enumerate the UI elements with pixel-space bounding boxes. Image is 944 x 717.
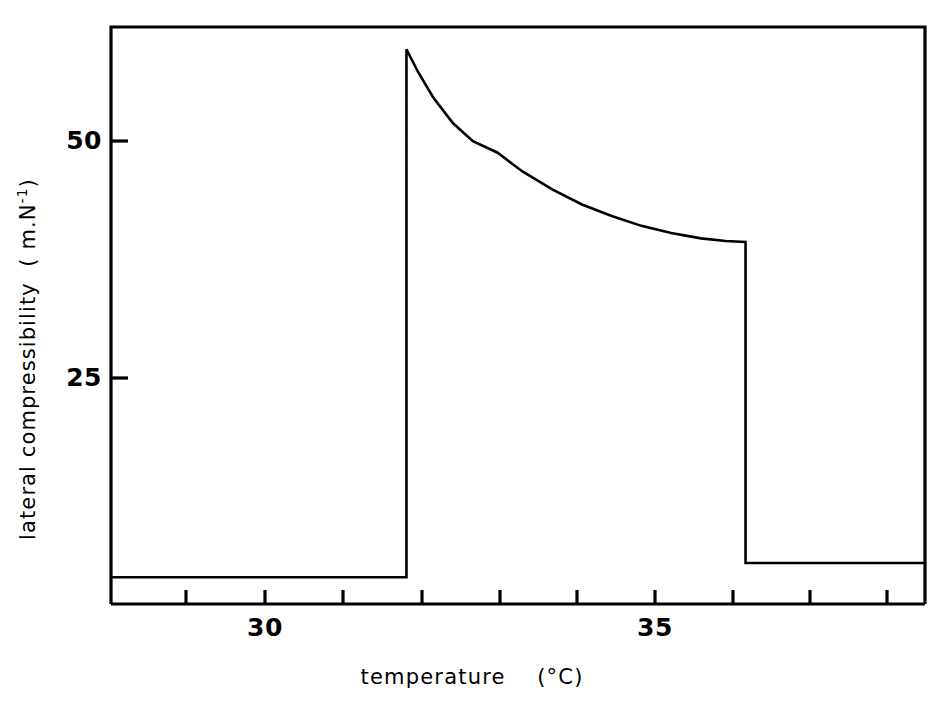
- x-axis-ticks: [186, 590, 887, 604]
- y-axis-title-exponent: -1: [14, 187, 30, 203]
- y-axis-title-container: lateral compressibility ( m.N-1): [8, 0, 48, 717]
- data-series-lateral-compressibility: [111, 49, 925, 577]
- figure-canvas: 50 25 30 35 temperature (°C) lateral com…: [0, 0, 944, 717]
- x-tick-label-35: 35: [637, 613, 673, 642]
- y-axis-title: lateral compressibility ( m.N-1): [16, 178, 40, 540]
- x-axis-title-spacer: [506, 665, 538, 689]
- y-tick-label-25: 25: [66, 363, 102, 392]
- x-axis-title-main: temperature: [360, 665, 505, 689]
- x-axis-title-units: (°C): [537, 665, 583, 689]
- x-axis-title: temperature (°C): [0, 665, 944, 689]
- x-tick-label-30: 30: [247, 613, 283, 642]
- plot-frame: [111, 27, 925, 604]
- y-axis-title-suffix: ): [16, 178, 40, 187]
- y-axis-title-prefix: lateral compressibility ( m.N: [16, 203, 40, 539]
- chart-plot-area: [0, 0, 944, 717]
- y-tick-label-50: 50: [66, 126, 102, 155]
- y-axis-ticks: [111, 141, 128, 378]
